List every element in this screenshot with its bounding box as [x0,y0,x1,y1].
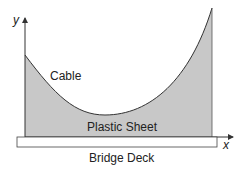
cable-label: Cable [50,69,82,83]
y-axis-label: y [12,13,20,27]
bridge-cable-diagram: y x Cable Plastic Sheet Bridge Deck [0,0,243,171]
bridge-deck-label: Bridge Deck [89,151,155,165]
bridge-deck [17,137,217,147]
plastic-sheet-label: Plastic Sheet [87,120,158,134]
x-axis-label: x [222,138,230,152]
